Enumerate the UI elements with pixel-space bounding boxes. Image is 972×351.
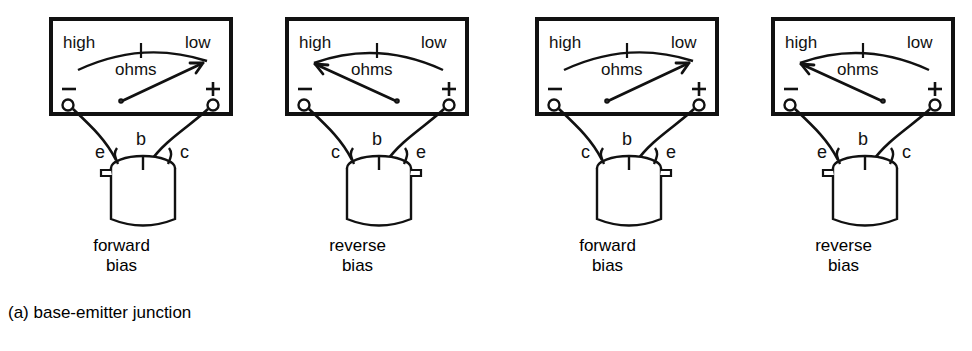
bias-caption-line1: forward: [486, 236, 729, 256]
scale-unit-label: ohms: [837, 60, 879, 79]
positive-terminal-post: [694, 100, 705, 111]
lead-label-right: c: [180, 142, 189, 162]
bias-caption: forward bias: [0, 236, 243, 276]
lead-label-right: e: [666, 142, 676, 162]
lead-label-center: b: [372, 129, 382, 149]
bias-caption: reverse bias: [236, 236, 479, 276]
lead-label-center: b: [622, 129, 632, 149]
lead-label-center: b: [136, 129, 146, 149]
bias-caption-line2: bias: [486, 256, 729, 276]
lead-label-right: e: [416, 142, 426, 162]
transistor-can-body: [347, 168, 411, 226]
bias-caption-line2: bias: [0, 256, 243, 276]
negative-terminal-post: [299, 100, 310, 111]
scale-label-high: high: [299, 33, 331, 52]
negative-terminal-post: [63, 100, 74, 111]
panel-a-caption: (a) base-emitter junction: [8, 303, 191, 323]
ohmmeter-transistor-drawing: high low ohms: [722, 0, 965, 240]
scale-label-high: high: [63, 33, 95, 52]
scale-unit-label: ohms: [601, 60, 643, 79]
positive-probe-wire: [872, 109, 930, 162]
ohmmeter-transistor-drawing: high low ohms: [486, 0, 729, 240]
scale-label-low: low: [671, 33, 697, 52]
transistor-orientation-tab: [823, 170, 834, 176]
transistor-orientation-tab: [101, 170, 112, 176]
positive-probe-wire: [386, 109, 444, 162]
lead-label-left: c: [331, 142, 340, 162]
needle-pivot: [119, 99, 122, 102]
scale-label-low: low: [421, 33, 447, 52]
bias-caption-line1: forward: [0, 236, 243, 256]
needle-pivot: [395, 99, 398, 102]
ohmmeter-transistor-drawing: high low ohms: [236, 0, 479, 240]
lead-label-right: c: [902, 142, 911, 162]
lead-label-left: e: [95, 142, 105, 162]
negative-terminal-post: [785, 100, 796, 111]
scale-label-low: low: [185, 33, 211, 52]
scale-unit-label: ohms: [351, 60, 393, 79]
positive-probe-wire: [636, 109, 694, 162]
transistor-orientation-tab: [660, 170, 671, 176]
scale-unit-label: ohms: [115, 60, 157, 79]
bias-caption-line2: bias: [236, 256, 479, 276]
negative-terminal-post: [549, 100, 560, 111]
test-setup-b-forward: high low ohms: [486, 0, 729, 300]
transistor-can-body: [597, 168, 661, 226]
scale-label-low: low: [907, 33, 933, 52]
test-setup-b-reverse: high low ohms: [722, 0, 965, 300]
bias-caption: forward bias: [486, 236, 729, 276]
bias-caption: reverse bias: [722, 236, 965, 276]
scale-label-high: high: [785, 33, 817, 52]
lead-label-center: b: [858, 129, 868, 149]
positive-terminal-post: [930, 100, 941, 111]
positive-terminal-post: [208, 100, 219, 111]
ohmmeter-transistor-drawing: high low ohms: [0, 0, 243, 240]
test-setup-a-reverse: high low ohms: [236, 0, 479, 300]
lead-label-left: c: [581, 142, 590, 162]
panel-b: high low ohms: [486, 0, 972, 351]
needle-pivot: [605, 99, 608, 102]
transistor-can-body: [833, 168, 897, 226]
scale-label-high: high: [549, 33, 581, 52]
bias-caption-line2: bias: [722, 256, 965, 276]
positive-probe-wire: [150, 109, 208, 162]
transistor-ohmmeter-test-figure: high low ohms: [0, 0, 972, 351]
transistor-can-body: [111, 168, 175, 226]
positive-terminal-post: [444, 100, 455, 111]
lead-label-left: e: [817, 142, 827, 162]
needle-pivot: [881, 99, 884, 102]
bias-caption-line1: reverse: [236, 236, 479, 256]
test-setup-a-forward: high low ohms: [0, 0, 243, 300]
panel-a: high low ohms: [0, 0, 486, 351]
transistor-orientation-tab: [410, 170, 421, 176]
bias-caption-line1: reverse: [722, 236, 965, 256]
